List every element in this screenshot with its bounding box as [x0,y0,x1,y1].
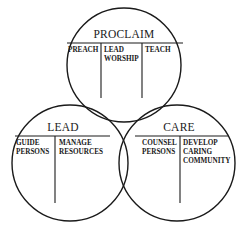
proclaim-item-teach: TEACH [145,46,171,54]
lead-item-manage-line2: RESOURCES [59,148,103,156]
proclaim-group: PROCLAIM PREACH LEAD WORSHIP TEACH [67,28,183,98]
lead-group: LEAD GUIDE PERSONS MANAGE RESOURCES [15,121,110,203]
care-item-counsel-line1: COUNSEL [142,139,177,147]
proclaim-item-lead-line2: WORSHIP [104,55,139,63]
proclaim-item-preach: PREACH [68,46,99,54]
proclaim-circle [67,8,181,122]
care-item-develop-line1: DEVELOP [183,139,218,147]
lead-item-guide-line1: GUIDE [16,139,40,147]
care-group: CARE COUNSEL PERSONS DEVELOP CARING COMM… [135,121,231,203]
venn-diagram: PROCLAIM PREACH LEAD WORSHIP TEACH LEAD … [0,0,247,232]
lead-item-manage-line1: MANAGE [59,139,92,147]
care-item-develop-line2: CARING [183,148,213,156]
venn-svg: PROCLAIM PREACH LEAD WORSHIP TEACH LEAD … [0,0,247,232]
care-item-develop-line3: COMMUNITY [183,157,231,165]
lead-title: LEAD [47,121,78,133]
lead-item-guide-line2: PERSONS [16,148,49,156]
proclaim-title: PROCLAIM [93,28,154,40]
care-title: CARE [163,121,194,133]
care-item-counsel-line2: PERSONS [142,148,175,156]
proclaim-item-lead-line1: LEAD [104,46,124,54]
